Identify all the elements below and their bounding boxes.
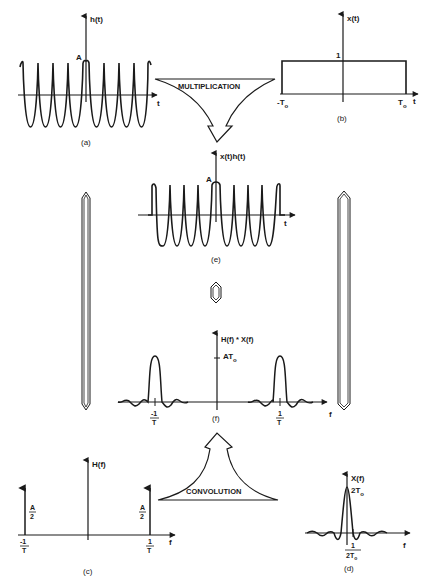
left-freq-num: -1	[20, 538, 26, 545]
fourier-pair-right-icon	[338, 191, 350, 410]
panel-f: H(f) * X(f) ATo -1 T 1 T f (f)	[118, 333, 332, 426]
f-axis-label: f	[169, 538, 172, 547]
multiplication-arrow: MULTIPLICATION	[155, 79, 275, 142]
left-sinc	[118, 356, 188, 407]
right-freq-num: 1	[148, 538, 152, 545]
right-freq-num: 1	[278, 410, 282, 417]
impulse-right-den: 2	[140, 513, 144, 520]
fourier-pair-left-icon	[82, 192, 90, 410]
zero-den: 2To	[346, 552, 357, 561]
h-axis-label: h(t)	[90, 15, 103, 24]
X-axis-label: X(f)	[351, 474, 365, 483]
fourier-pair-center-icon	[211, 282, 221, 303]
amplitude-label: A	[76, 53, 82, 62]
impulse-right-num: A	[140, 504, 145, 511]
panel-d: X(f) 2To 1 2To f (d)	[305, 474, 410, 573]
hx-axis-label: H(f) * X(f)	[221, 335, 254, 344]
panel-c: H(f) A 2 A 2 -1 T 1 T f (c)	[18, 460, 175, 576]
left-freq-den: T	[152, 419, 157, 426]
panel-b: x(t) 1 -To To t (b)	[277, 14, 418, 123]
amplitude-label: A	[206, 175, 212, 184]
zero-num: 1	[351, 542, 355, 549]
t-axis-label: t	[413, 97, 416, 106]
caption-b: (b)	[337, 114, 347, 123]
panel-e: x(t)h(t) A t (e)	[138, 152, 295, 264]
caption-d: (d)	[344, 564, 354, 573]
right-freq-den: T	[147, 547, 152, 554]
peak-label: ATo	[223, 352, 237, 363]
xh-axis-label: x(t)h(t)	[220, 152, 246, 161]
convolution-label: CONVOLUTION	[186, 487, 241, 496]
panel-a: h(t) A t (a)	[18, 15, 160, 147]
right-edge-label: To	[398, 98, 407, 109]
peak-label: 2To	[351, 486, 364, 497]
caption-f: (f)	[212, 414, 220, 423]
caption-a: (a)	[81, 138, 91, 147]
t-axis-label: t	[157, 99, 160, 108]
f-axis-label: f	[403, 541, 406, 550]
multiplication-label: MULTIPLICATION	[178, 82, 240, 91]
impulse-left-num: A	[30, 504, 35, 511]
left-freq-den: T	[22, 547, 27, 554]
left-freq-num: -1	[151, 410, 157, 417]
t-axis-label: t	[284, 219, 287, 228]
right-freq-den: T	[277, 419, 282, 426]
x-axis-label: x(t)	[347, 14, 360, 23]
caption-e: (e)	[211, 255, 221, 264]
f-axis-label: f	[329, 410, 332, 419]
rect-window	[282, 61, 406, 94]
H-axis-label: H(f)	[92, 460, 106, 469]
convolution-arrow: CONVOLUTION	[158, 433, 278, 500]
left-edge-label: -To	[277, 98, 289, 109]
fourier-diagram: h(t) A t (a) x(t) 1 -To To t (b) MULTIPL…	[0, 0, 432, 588]
height-label: 1	[336, 51, 341, 60]
impulse-left-den: 2	[30, 513, 34, 520]
caption-c: (c)	[83, 567, 93, 576]
